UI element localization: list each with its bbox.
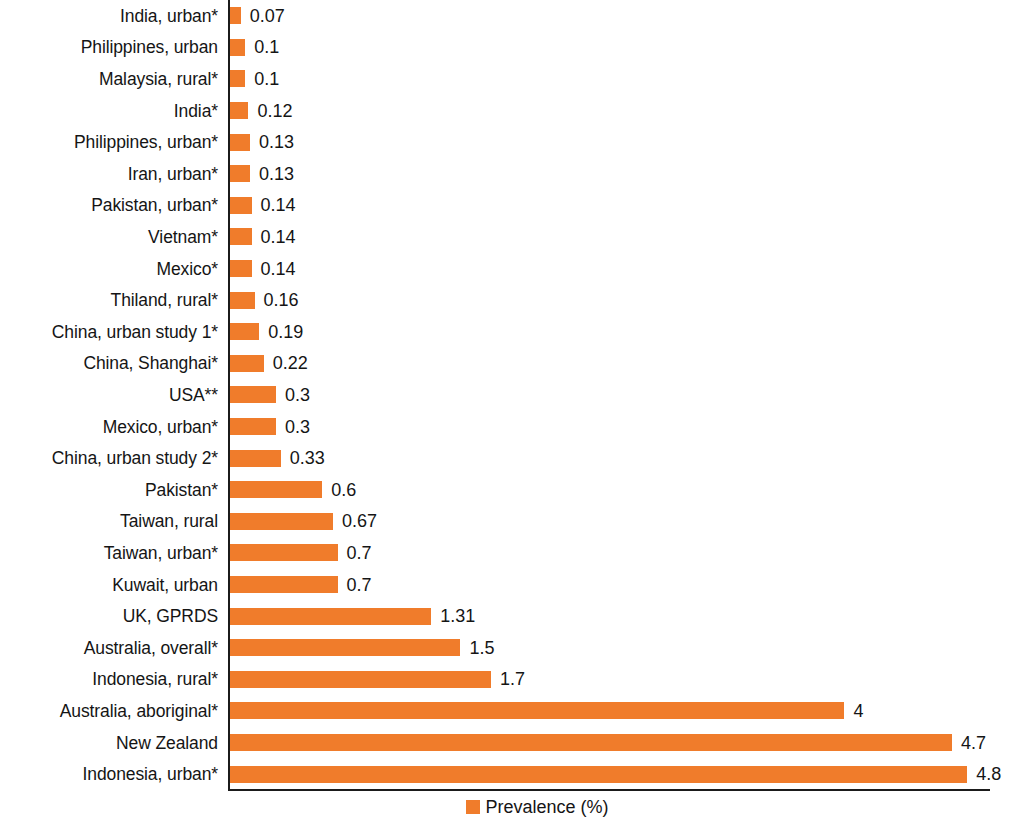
bar-row: UK, GPRDS1.31: [0, 600, 1015, 632]
category-label: Taiwan, rural: [0, 511, 218, 531]
category-label: China, Shanghai*: [0, 353, 218, 373]
bar: [230, 7, 241, 24]
bar-row: USA**0.3: [0, 379, 1015, 411]
bar-value-label: 0.13: [259, 164, 294, 184]
bar-value-label: 0.22: [273, 353, 308, 373]
prevalence-bar-chart: India, urban*0.07Philippines, urban0.1Ma…: [0, 0, 1015, 822]
category-label: India, urban*: [0, 6, 218, 26]
bar-value-label: 0.12: [257, 101, 292, 121]
chart-legend: Prevalence (%): [0, 797, 1015, 817]
category-label: Thiland, rural*: [0, 290, 218, 310]
bar-value-label: 0.33: [290, 448, 325, 468]
category-label: Mexico*: [0, 259, 218, 279]
bar-row: Mexico*0.14: [0, 253, 1015, 285]
bar-row: New Zealand4.7: [0, 727, 1015, 759]
bar-value-label: 0.7: [347, 575, 372, 595]
bar: [230, 70, 245, 87]
category-label: Philippines, urban: [0, 37, 218, 57]
plot-area: India, urban*0.07Philippines, urban0.1Ma…: [0, 0, 1015, 792]
bar: [230, 386, 276, 403]
bar-value-label: 0.7: [347, 543, 372, 563]
category-label: Taiwan, urban*: [0, 543, 218, 563]
category-label: Malaysia, rural*: [0, 69, 218, 89]
bar-row: China, urban study 2*0.33: [0, 442, 1015, 474]
bar-row: Kuwait, urban0.7: [0, 569, 1015, 601]
bar-row: Taiwan, urban*0.7: [0, 537, 1015, 569]
category-label: China, urban study 1*: [0, 322, 218, 342]
bar: [230, 481, 322, 498]
bar-value-label: 0.14: [261, 195, 296, 215]
bar-row: Thiland, rural*0.16: [0, 284, 1015, 316]
bar-row: Pakistan, urban*0.14: [0, 190, 1015, 222]
bar: [230, 576, 338, 593]
bar-value-label: 4.7: [961, 733, 986, 753]
bar: [230, 639, 460, 656]
bar-row: China, urban study 1*0.19: [0, 316, 1015, 348]
legend-label-prevalence: Prevalence (%): [485, 797, 608, 817]
category-label: New Zealand: [0, 733, 218, 753]
bar: [230, 513, 333, 530]
category-label: India*: [0, 101, 218, 121]
bar-value-label: 0.3: [285, 385, 310, 405]
bar-value-label: 0.67: [342, 511, 377, 531]
bar-value-label: 0.07: [250, 6, 285, 26]
bar-value-label: 0.14: [261, 259, 296, 279]
bar-row: China, Shanghai*0.22: [0, 348, 1015, 380]
category-label: China, urban study 2*: [0, 448, 218, 468]
bar-value-label: 1.5: [469, 638, 494, 658]
bar: [230, 260, 252, 277]
bar-row: Philippines, urban0.1: [0, 32, 1015, 64]
category-label: Pakistan, urban*: [0, 195, 218, 215]
bar-value-label: 0.14: [261, 227, 296, 247]
category-label: Mexico, urban*: [0, 417, 218, 437]
bar-row: Malaysia, rural*0.1: [0, 63, 1015, 95]
bar-row: Australia, overall*1.5: [0, 632, 1015, 664]
category-label: Indonesia, rural*: [0, 669, 218, 689]
bar-row: India, urban*0.07: [0, 0, 1015, 32]
bar: [230, 39, 245, 56]
bar-row: Mexico, urban*0.3: [0, 411, 1015, 443]
legend-swatch-prevalence: [466, 800, 480, 814]
bar-value-label: 0.13: [259, 132, 294, 152]
category-label: Indonesia, urban*: [0, 764, 218, 784]
bar-row: Australia, aboriginal*4: [0, 695, 1015, 727]
bar-row: Taiwan, rural0.67: [0, 506, 1015, 538]
bar: [230, 323, 259, 340]
bar-row: Indonesia, rural*1.7: [0, 664, 1015, 696]
bar: [230, 734, 952, 751]
bar-value-label: 0.19: [268, 322, 303, 342]
bar-row: Iran, urban*0.13: [0, 158, 1015, 190]
bar-row: Indonesia, urban*4.8: [0, 758, 1015, 790]
bar-row: Vietnam*0.14: [0, 221, 1015, 253]
bar: [230, 134, 250, 151]
bar: [230, 766, 967, 783]
bar: [230, 418, 276, 435]
bar-row: Pakistan*0.6: [0, 474, 1015, 506]
bar-value-label: 0.3: [285, 417, 310, 437]
bar: [230, 355, 264, 372]
category-label: Vietnam*: [0, 227, 218, 247]
bar: [230, 102, 248, 119]
bar: [230, 671, 491, 688]
bar: [230, 292, 255, 309]
bar: [230, 450, 281, 467]
bar: [230, 197, 252, 214]
bar-row: Philippines, urban*0.13: [0, 126, 1015, 158]
category-label: Iran, urban*: [0, 164, 218, 184]
category-label: Kuwait, urban: [0, 575, 218, 595]
bar: [230, 165, 250, 182]
bar: [230, 608, 431, 625]
bar-row: India*0.12: [0, 95, 1015, 127]
bar-value-label: 0.6: [331, 480, 356, 500]
category-label: Australia, overall*: [0, 638, 218, 658]
bar-value-label: 4.8: [976, 764, 1001, 784]
category-label: UK, GPRDS: [0, 606, 218, 626]
bar-value-label: 0.1: [254, 69, 279, 89]
bar-value-label: 4: [853, 701, 863, 721]
category-label: USA**: [0, 385, 218, 405]
bar: [230, 702, 844, 719]
bar: [230, 544, 338, 561]
bar-value-label: 0.16: [264, 290, 299, 310]
bar: [230, 228, 252, 245]
bar-value-label: 1.7: [500, 669, 525, 689]
